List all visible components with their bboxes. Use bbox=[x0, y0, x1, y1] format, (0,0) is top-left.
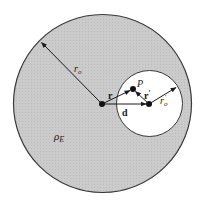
d-vector-label: d bbox=[122, 107, 128, 118]
r-vector-label: r bbox=[108, 90, 113, 101]
cavity-center-point bbox=[146, 101, 152, 107]
point-p-label: P bbox=[136, 78, 143, 89]
field-point-p bbox=[130, 86, 136, 92]
origin-point bbox=[99, 101, 105, 107]
cavity-sphere-diagram: ro r d P r′ ro′ ρE bbox=[0, 0, 202, 204]
